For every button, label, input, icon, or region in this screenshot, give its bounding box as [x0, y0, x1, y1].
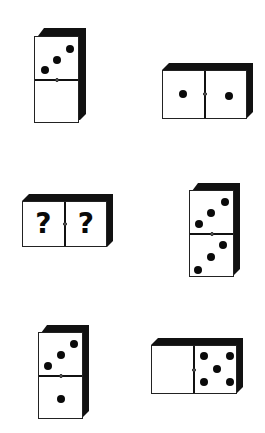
- pip: [207, 209, 215, 217]
- pip: [200, 352, 208, 360]
- domino-face: [38, 332, 83, 419]
- domino-vertical-3-0: [34, 28, 86, 124]
- domino-half-left: [152, 346, 193, 393]
- domino-half-top: [39, 333, 82, 375]
- center-pin: [203, 92, 207, 96]
- pip: [221, 198, 229, 206]
- center-pin: [192, 368, 196, 372]
- pip: [57, 351, 65, 359]
- domino-half-bottom: [35, 79, 78, 123]
- pip: [44, 362, 52, 370]
- pip: [226, 378, 234, 386]
- center-pin: [55, 78, 59, 82]
- domino-face: [189, 190, 234, 277]
- pip: [194, 266, 202, 274]
- domino-vertical-3-3: [189, 183, 240, 278]
- center-pin: [210, 232, 214, 236]
- domino-face: [162, 70, 247, 119]
- domino-half-bottom: [190, 233, 233, 277]
- pip: [57, 395, 65, 403]
- domino-half-left: ?: [23, 202, 64, 246]
- domino-half-top: [35, 37, 78, 79]
- domino-face: [34, 36, 79, 123]
- center-pin: [59, 374, 63, 378]
- question-mark-left: ?: [35, 210, 51, 238]
- pip: [213, 365, 221, 373]
- pip: [53, 56, 61, 64]
- question-mark-right: ?: [78, 210, 94, 238]
- domino-horizontal-1-1: [162, 63, 253, 120]
- pip: [66, 45, 74, 53]
- pip: [219, 241, 227, 249]
- domino-half-right: [204, 71, 247, 118]
- pip: [200, 378, 208, 386]
- domino-half-bottom: [39, 375, 82, 419]
- domino-unknown: ? ?: [22, 194, 113, 248]
- pip: [179, 90, 187, 98]
- domino-half-right: [193, 346, 236, 393]
- domino-vertical-3-1: [38, 325, 89, 420]
- pip: [195, 220, 203, 228]
- pip: [226, 352, 234, 360]
- domino-half-left: [163, 71, 204, 118]
- center-pin: [63, 222, 67, 226]
- pip: [41, 66, 49, 74]
- pip: [207, 253, 215, 261]
- domino-face: [151, 345, 237, 394]
- domino-horizontal-0-5: [151, 338, 243, 395]
- domino-half-top: [190, 191, 233, 233]
- domino-half-right: ?: [64, 202, 107, 246]
- pip: [70, 340, 78, 348]
- pip: [225, 92, 233, 100]
- domino-face: ? ?: [22, 201, 107, 247]
